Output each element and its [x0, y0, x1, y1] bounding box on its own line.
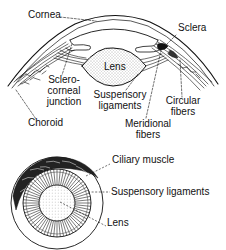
right-ciliary-fibers: [136, 40, 212, 90]
label-sclero-corneal-1: Sclero-: [45, 75, 83, 85]
eye-anatomy-diagram: Cornea Sclera Lens Sclero- corneal junct…: [0, 0, 226, 250]
label-lens-top: Lens: [104, 62, 126, 72]
label-cornea: Cornea: [28, 10, 61, 20]
label-sclero-corneal-3: junction: [43, 97, 85, 107]
label-circular-2: fibers: [162, 107, 204, 117]
label-choroid: Choroid: [28, 118, 63, 128]
label-meridional-1: Meridional: [120, 119, 176, 129]
front-view: [11, 157, 110, 249]
label-suspensory-2: ligaments: [93, 101, 147, 111]
label-suspensory-1: Suspensory: [93, 90, 147, 100]
label-suspensory-ligaments: Suspensory ligaments: [111, 187, 209, 197]
lens-circle: [39, 185, 75, 221]
label-sclera: Sclera: [178, 23, 206, 33]
label-ciliary-muscle: Ciliary muscle: [112, 155, 174, 165]
label-meridional-2: fibers: [120, 130, 176, 140]
label-lens-front: Lens: [107, 218, 129, 228]
cornea-inner-arc: [70, 29, 158, 40]
label-sclero-corneal-2: corneal: [45, 86, 83, 96]
label-circular-1: Circular: [162, 96, 204, 106]
